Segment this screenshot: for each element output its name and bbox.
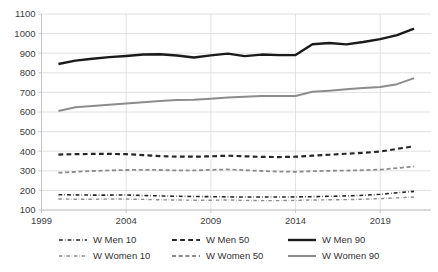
x-tick-label: 1999 bbox=[31, 215, 52, 226]
legend-label: W Women 90 bbox=[322, 250, 379, 261]
x-tick-label: 2019 bbox=[370, 215, 391, 226]
line-chart: 10020030040050060070080090010001100 1999… bbox=[0, 0, 438, 272]
series-group bbox=[58, 29, 414, 201]
y-tick-label: 900 bbox=[20, 48, 36, 59]
series-line-w-men-10 bbox=[58, 191, 414, 197]
legend-label: W Men 50 bbox=[206, 234, 249, 245]
legend-item-w-men-50[interactable]: W Men 50 bbox=[172, 234, 249, 245]
x-tick-label: 2004 bbox=[116, 215, 137, 226]
x-tick-label: 2014 bbox=[285, 215, 306, 226]
legend-label: W Women 10 bbox=[93, 250, 150, 261]
y-tick-label: 1000 bbox=[14, 28, 35, 39]
gridlines-group bbox=[42, 14, 432, 210]
series-line-w-women-50 bbox=[58, 166, 414, 172]
y-tick-label: 100 bbox=[20, 204, 36, 215]
series-line-w-men-50 bbox=[58, 146, 414, 157]
legend-item-w-men-90[interactable]: W Men 90 bbox=[288, 234, 365, 245]
x-axis-tick-labels: 19992004200920142019 bbox=[31, 215, 391, 226]
y-tick-label: 500 bbox=[20, 126, 36, 137]
y-tick-label: 200 bbox=[20, 185, 36, 196]
y-tick-label: 1100 bbox=[15, 8, 35, 19]
legend-item-w-men-10[interactable]: W Men 10 bbox=[59, 234, 136, 245]
chart-canvas: 10020030040050060070080090010001100 1999… bbox=[0, 0, 438, 272]
legend-label: W Men 90 bbox=[322, 234, 365, 245]
legend-label: W Women 50 bbox=[206, 250, 263, 261]
y-tick-label: 800 bbox=[20, 67, 36, 78]
series-line-w-women-90 bbox=[58, 78, 414, 111]
legend-label: W Men 10 bbox=[93, 234, 136, 245]
x-tick-label: 2009 bbox=[200, 215, 221, 226]
y-tick-label: 600 bbox=[20, 106, 36, 117]
y-axis-tick-labels: 10020030040050060070080090010001100 bbox=[14, 8, 35, 215]
chart-legend: W Men 10W Men 50W Men 90W Women 10W Wome… bbox=[59, 234, 379, 261]
y-tick-label: 300 bbox=[20, 165, 36, 176]
legend-item-w-women-90[interactable]: W Women 90 bbox=[288, 250, 379, 261]
y-tick-label: 400 bbox=[20, 146, 36, 157]
series-line-w-women-10 bbox=[58, 197, 414, 201]
axis-group bbox=[39, 14, 432, 213]
legend-item-w-women-10[interactable]: W Women 10 bbox=[59, 250, 150, 261]
y-tick-label: 700 bbox=[20, 87, 36, 98]
legend-item-w-women-50[interactable]: W Women 50 bbox=[172, 250, 263, 261]
